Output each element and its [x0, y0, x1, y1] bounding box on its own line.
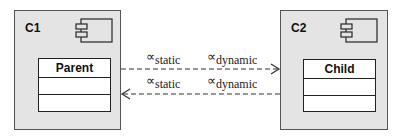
label-link1-static: ∝static	[146, 49, 180, 65]
label-link2-dynamic: ∝dynamic	[207, 73, 257, 89]
dependency-links	[0, 0, 401, 136]
label-link2-static: ∝static	[146, 73, 180, 89]
label-link1-dynamic: ∝dynamic	[207, 49, 257, 65]
